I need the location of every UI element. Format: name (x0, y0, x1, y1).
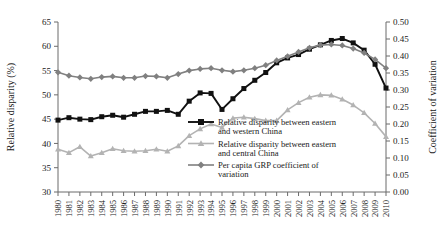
y-tick-label: 60 (42, 41, 52, 51)
data-point-square (220, 107, 225, 112)
y2-tick-label: 0.10 (393, 153, 409, 163)
data-point-square (121, 115, 126, 120)
y-axis-title: Relative disparity (%) (5, 63, 17, 151)
chart-legend: Relative disparity between easternand we… (188, 117, 337, 179)
y2-tick-label: 0.05 (393, 170, 409, 180)
data-point-diamond (263, 62, 269, 68)
data-point-square (230, 96, 235, 101)
x-tick-label: 2004 (316, 199, 326, 217)
data-point-diamond (88, 76, 94, 82)
series-3 (55, 41, 389, 82)
data-point-diamond (186, 68, 192, 74)
data-point-square (241, 86, 246, 91)
data-point-diamond (175, 71, 181, 77)
x-tick-label: 1998 (250, 200, 260, 217)
data-point-square (143, 109, 148, 114)
x-tick-label: 1987 (130, 200, 140, 217)
x-tick-label: 1993 (196, 200, 206, 217)
y-tick-label: 65 (42, 17, 52, 27)
data-point-diamond (230, 69, 236, 75)
data-point-diamond (350, 45, 356, 51)
x-tick-label: 1982 (75, 200, 85, 217)
data-point-diamond (197, 66, 203, 72)
data-point-square (209, 91, 214, 96)
data-point-diamond (241, 67, 247, 73)
y2-tick-label: 0.35 (393, 68, 409, 78)
series-line (58, 44, 386, 78)
data-point-square (384, 86, 389, 91)
y2-tick-label: 0.15 (393, 136, 409, 146)
data-point-square (187, 99, 192, 104)
x-tick-label: 1989 (152, 200, 162, 217)
y-tick-label: 30 (42, 187, 52, 197)
y2-tick-label: 0.45 (393, 34, 409, 44)
x-tick-label: 1992 (185, 200, 195, 217)
data-point-square (99, 114, 104, 119)
relative-disparity-line-chart: 65605550454035300.500.450.400.350.300.25… (0, 0, 447, 243)
x-tick-label: 2000 (272, 200, 282, 217)
x-tick-label: 2007 (349, 200, 359, 217)
y-tick-label: 55 (42, 66, 52, 76)
y2-tick-label: 0.40 (393, 51, 409, 61)
legend-label-cont: and western China (218, 126, 282, 136)
x-tick-label: 1996 (228, 200, 238, 217)
data-point-diamond (153, 73, 159, 79)
data-point-square (198, 119, 204, 125)
x-tick-label: 2003 (305, 200, 315, 217)
x-tick-label: 2002 (294, 200, 304, 217)
x-tick-label: 2010 (381, 200, 391, 217)
x-tick-label: 1983 (86, 200, 96, 217)
data-point-square (88, 117, 93, 122)
data-point-diamond (131, 75, 137, 81)
x-tick-label: 1999 (261, 200, 271, 217)
y2-axis-title: Coefficient of variation (427, 60, 438, 154)
data-point-square (176, 112, 181, 117)
data-point-square (66, 115, 71, 120)
x-tick-label: 1994 (206, 199, 216, 217)
data-point-square (340, 36, 345, 41)
x-tick-label: 1980 (53, 200, 63, 217)
y2-tick-label: 0.25 (393, 102, 409, 112)
y2-tick-label: 0.00 (393, 187, 409, 197)
x-tick-label: 1981 (64, 200, 74, 217)
y2-tick-label: 0.30 (393, 85, 409, 95)
data-point-diamond (142, 73, 148, 79)
data-point-diamond (252, 65, 258, 71)
data-point-square (110, 113, 115, 118)
y-tick-label: 35 (42, 163, 52, 173)
data-point-square (263, 70, 268, 75)
data-point-diamond (99, 74, 105, 80)
x-tick-label: 2005 (327, 200, 337, 217)
data-point-diamond (208, 65, 214, 71)
data-point-square (56, 118, 61, 123)
x-tick-label: 1991 (174, 200, 184, 217)
data-point-square (252, 78, 257, 83)
data-point-diamond (198, 162, 205, 169)
data-point-square (154, 109, 159, 114)
data-point-triangle (77, 144, 83, 149)
data-point-diamond (110, 73, 116, 79)
data-point-diamond (120, 75, 126, 81)
y-tick-label: 45 (42, 114, 52, 124)
data-point-square (165, 108, 170, 113)
data-point-diamond (339, 42, 345, 48)
x-tick-label: 1990 (163, 200, 173, 217)
y2-tick-label: 0.50 (393, 17, 409, 27)
legend-label-cont: variation (218, 169, 249, 179)
x-tick-label: 2006 (338, 200, 348, 217)
x-tick-label: 1997 (239, 200, 249, 217)
y-tick-label: 50 (42, 90, 52, 100)
data-point-square (77, 117, 82, 122)
data-point-diamond (77, 74, 83, 80)
data-point-diamond (219, 67, 225, 73)
x-tick-label: 1988 (141, 200, 151, 217)
series-1 (56, 36, 389, 123)
x-tick-label: 2009 (370, 200, 380, 217)
data-point-diamond (164, 75, 170, 81)
data-point-square (351, 40, 356, 45)
x-tick-label: 1984 (97, 199, 107, 217)
data-point-square (132, 112, 137, 117)
data-point-square (198, 90, 203, 95)
legend-label-cont: and central China (218, 148, 279, 158)
x-tick-label: 1995 (217, 200, 227, 217)
